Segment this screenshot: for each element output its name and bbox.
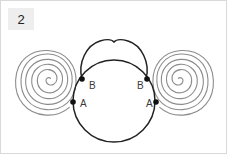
left-spiral bbox=[16, 51, 77, 116]
point-a-left bbox=[70, 99, 76, 105]
left-spiral-path bbox=[16, 51, 77, 116]
right-spiral-path bbox=[153, 51, 214, 116]
panel-label-text: 2 bbox=[17, 13, 24, 26]
right-spiral bbox=[153, 51, 214, 116]
point-b-left bbox=[79, 76, 85, 82]
point-label-b-right: B bbox=[137, 81, 144, 91]
point-b-right bbox=[144, 76, 150, 82]
point-label-a-right: A bbox=[146, 99, 153, 109]
point-label-b-left: B bbox=[89, 81, 96, 91]
point-label-a-left: A bbox=[80, 99, 87, 109]
point-a-right bbox=[153, 99, 159, 105]
panel-label-box: 2 bbox=[8, 8, 34, 30]
diagram-canvas bbox=[1, 1, 227, 154]
figure-panel: 2 B A B A bbox=[0, 0, 227, 154]
